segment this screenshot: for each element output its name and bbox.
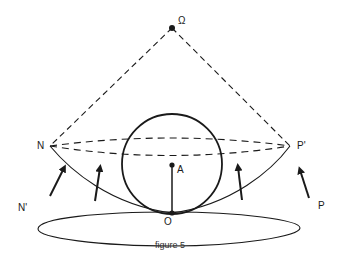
point-o [169,210,174,215]
figure-caption: figure 5 [155,240,185,250]
label-omega: Ω [178,16,185,26]
curve-n-o-pprime [50,146,290,213]
label-n-prime: N' [18,203,27,213]
dashed-ellipse-lower [50,146,290,156]
arrow-left-outer [50,168,64,196]
arrow-right-outer [300,170,309,198]
label-p: P [318,201,325,211]
label-p-prime: P' [297,141,306,151]
point-a [169,162,174,167]
arrow-left-inner [95,168,100,201]
cone-line-right [172,28,290,146]
label-o: O [164,217,172,227]
omega-point [169,25,175,31]
arrow-right-inner [238,167,242,200]
cone-line-left [50,28,172,146]
label-a: A [177,165,184,175]
dashed-ellipse-upper [50,138,290,146]
label-n: N [37,141,44,151]
